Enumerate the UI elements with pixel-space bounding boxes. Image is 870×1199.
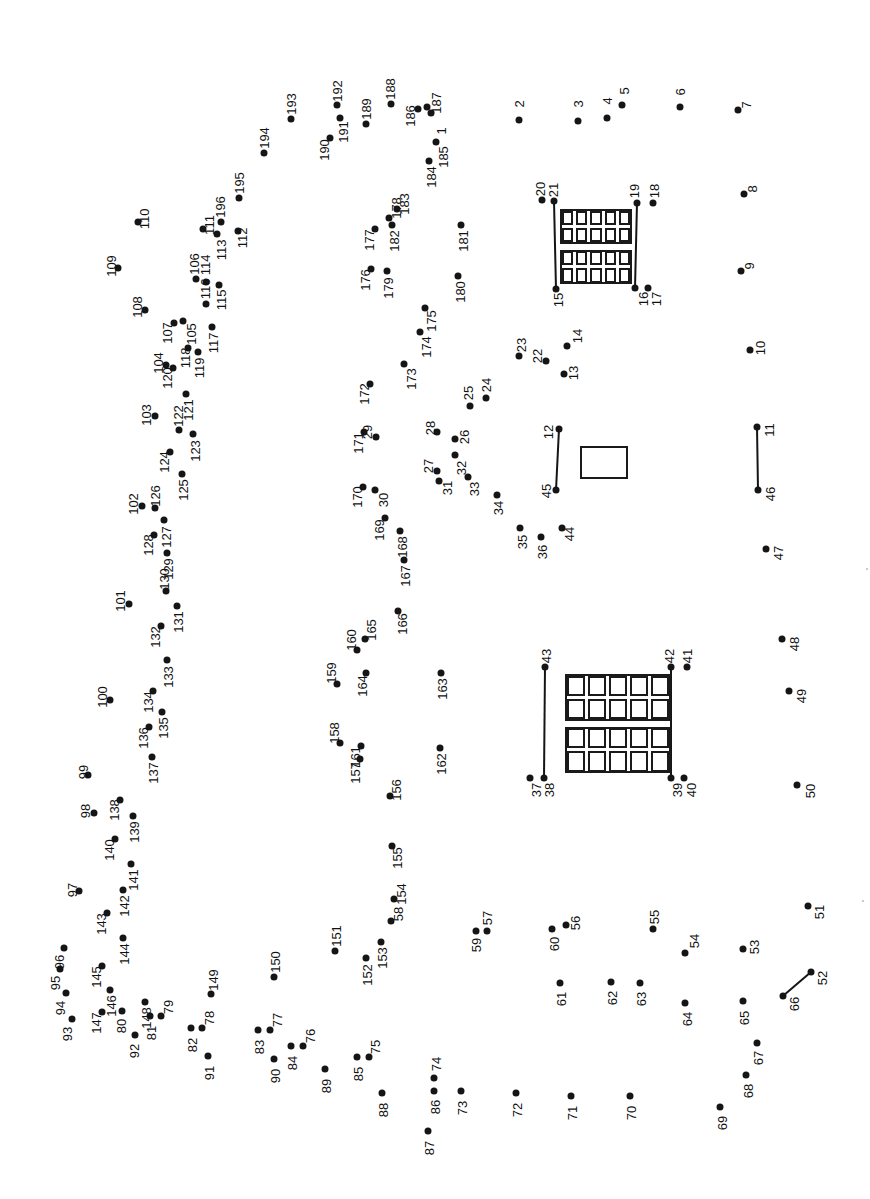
dot-20[interactable] xyxy=(539,197,546,204)
dot-52[interactable] xyxy=(808,969,815,976)
dot-55[interactable] xyxy=(650,926,657,933)
dot-37[interactable] xyxy=(527,775,534,782)
dot-87[interactable] xyxy=(425,1128,432,1135)
dot-83[interactable] xyxy=(255,1027,262,1034)
dot-68[interactable] xyxy=(743,1072,750,1079)
dot-67[interactable] xyxy=(754,1040,761,1047)
dot-85[interactable] xyxy=(354,1054,361,1061)
dot-54[interactable] xyxy=(682,950,689,957)
dot-189[interactable] xyxy=(363,121,370,128)
dot-39[interactable] xyxy=(668,775,675,782)
dot-6[interactable] xyxy=(677,104,684,111)
dot-69[interactable] xyxy=(717,1104,724,1111)
dot-182[interactable] xyxy=(389,222,396,229)
dot-63[interactable] xyxy=(637,980,644,987)
dot-3[interactable] xyxy=(575,118,582,125)
dot-60[interactable] xyxy=(549,926,556,933)
dot-62[interactable] xyxy=(608,979,615,986)
dot-149[interactable] xyxy=(208,991,215,998)
dot-88[interactable] xyxy=(379,1090,386,1097)
dot-82[interactable] xyxy=(188,1025,195,1032)
dot-65[interactable] xyxy=(740,998,747,1005)
dot-142[interactable] xyxy=(120,887,127,894)
dot-77[interactable] xyxy=(267,1027,274,1034)
dot-146[interactable] xyxy=(107,987,114,994)
dot-127[interactable] xyxy=(161,517,168,524)
dot-36[interactable] xyxy=(538,534,545,541)
dot-188[interactable] xyxy=(388,101,395,108)
dot-196[interactable] xyxy=(218,219,225,226)
dot-23[interactable] xyxy=(516,353,523,360)
dot-71[interactable] xyxy=(568,1093,575,1100)
dot-41[interactable] xyxy=(684,664,691,671)
dot-2[interactable] xyxy=(516,117,523,124)
dot-113[interactable] xyxy=(214,231,221,238)
dot-51[interactable] xyxy=(805,903,812,910)
dot-131[interactable] xyxy=(174,603,181,610)
dot-17[interactable] xyxy=(645,285,652,292)
dot-94[interactable] xyxy=(63,990,70,997)
dot-64[interactable] xyxy=(682,1000,689,1007)
dot-125[interactable] xyxy=(179,471,186,478)
dot-43[interactable] xyxy=(542,664,549,671)
dot-153[interactable] xyxy=(378,939,385,946)
dot-16[interactable] xyxy=(632,285,639,292)
dot-50[interactable] xyxy=(794,782,801,789)
dot-21[interactable] xyxy=(551,198,558,205)
dot-14[interactable] xyxy=(564,343,571,350)
dot-59[interactable] xyxy=(473,928,480,935)
dot-46[interactable] xyxy=(755,487,762,494)
dot-38[interactable] xyxy=(541,775,548,782)
dot-19[interactable] xyxy=(634,200,641,207)
dot-168[interactable] xyxy=(397,528,404,535)
dot-115[interactable] xyxy=(216,282,223,289)
dot-53[interactable] xyxy=(740,946,747,953)
dot-180[interactable] xyxy=(455,273,462,280)
dot-32[interactable] xyxy=(452,452,459,459)
dot-74[interactable] xyxy=(431,1075,438,1082)
dot-90[interactable] xyxy=(271,1056,278,1063)
dot-42[interactable] xyxy=(668,664,675,671)
dot-129[interactable] xyxy=(164,550,171,557)
dot-49[interactable] xyxy=(786,688,793,695)
dot-184[interactable] xyxy=(426,158,433,165)
dot-96[interactable] xyxy=(61,945,68,952)
dot-75[interactable] xyxy=(366,1054,373,1061)
dot-66[interactable] xyxy=(780,993,787,1000)
dot-122[interactable] xyxy=(176,427,183,434)
dot-15[interactable] xyxy=(553,286,560,293)
dot-123[interactable] xyxy=(190,431,197,438)
dot-162[interactable] xyxy=(437,745,444,752)
dot-150[interactable] xyxy=(271,974,278,981)
dot-195[interactable] xyxy=(236,195,243,202)
dot-84[interactable] xyxy=(288,1043,295,1050)
dot-61[interactable] xyxy=(557,980,564,987)
dot-192[interactable] xyxy=(334,102,341,109)
dot-73[interactable] xyxy=(458,1088,465,1095)
dot-25[interactable] xyxy=(467,403,474,410)
dot-11[interactable] xyxy=(754,424,761,431)
dot-141[interactable] xyxy=(128,861,135,868)
dot-92[interactable] xyxy=(132,1032,139,1039)
dot-144[interactable] xyxy=(120,935,127,942)
dot-70[interactable] xyxy=(627,1093,634,1100)
dot-5[interactable] xyxy=(619,102,626,109)
dot-35[interactable] xyxy=(517,525,524,532)
dot-57[interactable] xyxy=(484,928,491,935)
dot-174[interactable] xyxy=(417,329,424,336)
dot-12[interactable] xyxy=(556,426,563,433)
dot-116[interactable] xyxy=(203,301,210,308)
dot-121[interactable] xyxy=(183,391,190,398)
dot-151[interactable] xyxy=(332,948,339,955)
dot-173[interactable] xyxy=(401,361,408,368)
dot-194[interactable] xyxy=(261,150,268,157)
dot-117[interactable] xyxy=(209,324,216,331)
dot-80[interactable] xyxy=(119,1008,126,1015)
dot-72[interactable] xyxy=(513,1090,520,1097)
dot-45[interactable] xyxy=(553,487,560,494)
dot-4[interactable] xyxy=(604,115,611,122)
dot-163[interactable] xyxy=(438,670,445,677)
dot-181[interactable] xyxy=(458,222,465,229)
dot-152[interactable] xyxy=(363,955,370,962)
dot-48[interactable] xyxy=(779,636,786,643)
